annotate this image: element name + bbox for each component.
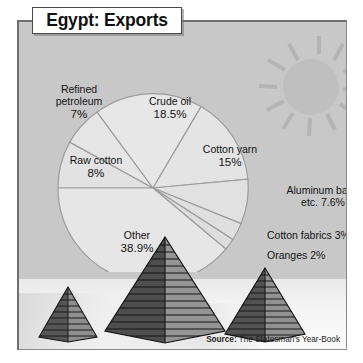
pie-label-oranges: Oranges 2% xyxy=(267,250,347,262)
pie-label-other: Other 38.9% xyxy=(103,230,171,255)
pie-label-refined-petroleum-name2: petroleum xyxy=(56,95,103,107)
pyramid-icon-right xyxy=(222,266,308,346)
pie-label-crude-oil-name: Crude oil xyxy=(149,95,191,107)
pie-label-raw-cotton-name: Raw cotton xyxy=(70,154,123,166)
pie-label-cotton-fabrics: Cotton fabrics 3% xyxy=(267,230,347,242)
pie-label-aluminum-bars-pct: etc. 7.6% xyxy=(301,196,345,208)
pie-label-refined-petroleum-pct: 7% xyxy=(71,107,88,120)
pie-label-other-pct: 38.9% xyxy=(121,241,154,254)
chart-panel: Refined petroleum 7% Crude oil 18.5% Cot… xyxy=(17,20,347,350)
pie-label-refined-petroleum-name: Refined xyxy=(61,83,97,95)
pyramid-icon-left xyxy=(37,285,99,345)
chart-title-plaque: Egypt: Exports xyxy=(32,7,182,34)
source-note: Source: The Statesman's Year-Book xyxy=(206,335,340,344)
pie-label-raw-cotton-pct: 8% xyxy=(88,166,105,179)
page-title: Egypt: Exports xyxy=(46,10,168,31)
pie-label-raw-cotton: Raw cotton 8% xyxy=(57,155,135,180)
pie-label-cotton-yarn-pct: 15% xyxy=(218,155,241,168)
pie-label-oranges-text: Oranges 2% xyxy=(267,249,325,261)
pie-label-cotton-yarn: Cotton yarn 15% xyxy=(193,144,267,169)
pie-label-aluminum-bars: Aluminum bars, etc. 7.6% xyxy=(275,185,347,209)
pie-label-aluminum-bars-name: Aluminum bars, xyxy=(287,184,347,196)
pie-label-refined-petroleum: Refined petroleum 7% xyxy=(43,84,115,120)
pie-label-other-name: Other xyxy=(124,229,150,241)
pie-label-crude-oil-pct: 18.5% xyxy=(154,107,187,120)
pie-label-crude-oil: Crude oil 18.5% xyxy=(131,96,209,121)
source-text: The Statesman's Year-Book xyxy=(239,335,340,344)
pie-label-cotton-yarn-name: Cotton yarn xyxy=(203,143,257,155)
pie-label-cotton-fabrics-text: Cotton fabrics 3% xyxy=(267,229,347,241)
figure-exports-pie: Refined petroleum 7% Crude oil 18.5% Cot… xyxy=(0,0,363,363)
source-label: Source: xyxy=(206,335,236,344)
